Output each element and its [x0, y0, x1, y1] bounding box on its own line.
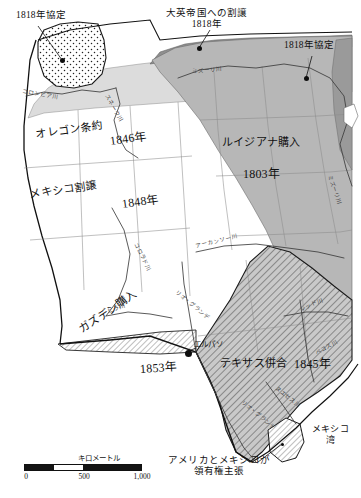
anchor-dot-el-paso: [185, 350, 192, 357]
water-line-1: メキシコ: [312, 424, 349, 435]
region-year-texas-annexation: 1845年: [294, 357, 331, 371]
callout-line-1: アメリカとメキシコが: [168, 455, 270, 466]
scale-unit-label: キロメートル: [50, 452, 148, 463]
region-year-louisiana-purchase: 1803年: [243, 167, 280, 181]
scale-segment-2: [54, 465, 83, 470]
scale-segment-4: [112, 465, 141, 470]
callout-treaty-1818-northeast: 1818年協定: [284, 40, 334, 51]
callout-treaty-1818-northwest: 1818年協定: [16, 10, 66, 21]
water-label-gulf-of-mexico: メキシコ 湾: [312, 424, 349, 447]
scale-segment-1: [25, 465, 54, 470]
scale-tick-500: 500: [78, 472, 89, 481]
scale-tick-labels: 0 500 1,000: [24, 472, 148, 482]
callout-cession-to-britain: 大英帝国への割譲 1818年: [166, 8, 248, 30]
region-year-gadsden-purchase: 1853年: [140, 359, 178, 376]
callout-line-1: 1818年協定: [284, 40, 334, 51]
map-graphic: [0, 0, 361, 498]
scale-tick-0: 0: [24, 472, 28, 481]
map-canvas: 1818年協定 大英帝国への割譲 1818年 1818年協定 アメリカとメキシコ…: [0, 0, 361, 498]
callout-line-2: 領有権主張: [168, 466, 270, 477]
anchor-dot-british-cession: [197, 46, 202, 51]
callout-line-1: 1818年協定: [16, 10, 66, 21]
region-label-louisiana-purchase: ルイジアナ購入: [222, 136, 300, 149]
scale-tick-1000: 1,000: [134, 472, 151, 481]
scale-bar-graphic: [24, 464, 142, 471]
water-line-2: 湾: [312, 435, 349, 446]
callout-line-1: 大英帝国への割譲: [166, 8, 248, 19]
anchor-dot-treaty-1818-nw: [60, 58, 65, 63]
callout-us-mexico-claim: アメリカとメキシコが 領有権主張: [168, 455, 270, 477]
anchor-dot-treaty-1818-ne: [304, 76, 309, 81]
region-label-texas-annexation: テキサス併合: [220, 357, 287, 370]
city-label-el-paso: エルパソ: [194, 341, 223, 350]
scale-segment-3: [83, 465, 112, 470]
callout-line-2: 1818年: [166, 19, 248, 30]
region-oregon-stipple: [38, 22, 106, 88]
scale-bar: キロメートル 0 500 1,000: [24, 452, 148, 482]
